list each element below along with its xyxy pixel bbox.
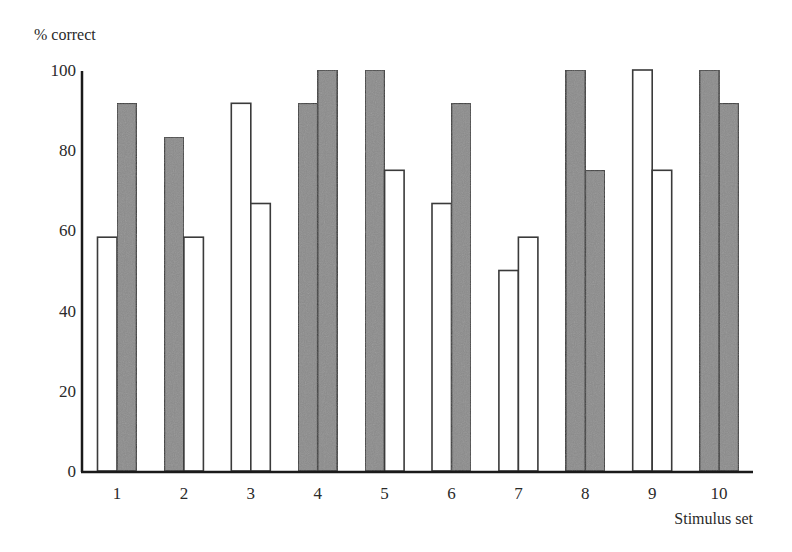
bar-set-8-2-filled: [585, 170, 605, 471]
bar-set-5-2-open: [385, 170, 405, 471]
y-tick-label: 100: [51, 61, 77, 80]
bar-set-5-1-filled: [365, 70, 385, 471]
bar-set-7-2-open: [518, 237, 538, 471]
bar-set-7-1-open: [499, 271, 519, 472]
x-tick-label: 4: [313, 484, 322, 503]
bar-chart: % correct Stimulus set 020406080100 1234…: [0, 0, 792, 552]
bar-set-2-2-open: [184, 237, 204, 471]
bar-set-4-1-filled: [298, 103, 318, 471]
y-tick-label: 20: [59, 382, 76, 401]
x-tick-label: 8: [581, 484, 590, 503]
bar-set-4-2-filled: [318, 70, 338, 471]
y-axis-title: % correct: [34, 26, 96, 43]
y-tick-labels: 020406080100: [51, 61, 77, 481]
x-tick-label: 1: [113, 484, 122, 503]
x-tick-label: 9: [648, 484, 657, 503]
bar-set-1-2-filled: [117, 103, 137, 471]
x-tick-label: 6: [447, 484, 456, 503]
bar-set-10-2-filled: [719, 103, 739, 471]
bars: [98, 70, 739, 471]
y-tick-label: 0: [68, 462, 77, 481]
bar-set-10-1-filled: [700, 70, 720, 471]
bar-set-3-1-open: [231, 103, 251, 471]
x-tick-label: 10: [711, 484, 728, 503]
x-tick-labels: 12345678910: [113, 484, 728, 503]
bar-set-6-2-filled: [452, 103, 472, 471]
bar-set-9-2-open: [652, 170, 672, 471]
x-tick-label: 5: [380, 484, 389, 503]
x-axis-title: Stimulus set: [674, 510, 753, 527]
bar-set-6-1-open: [432, 204, 452, 472]
y-tick-label: 80: [59, 141, 76, 160]
bar-set-3-2-open: [251, 204, 270, 472]
bar-set-9-1-open: [633, 70, 653, 471]
bar-set-8-1-filled: [566, 70, 586, 471]
x-tick-label: 7: [514, 484, 523, 503]
x-tick-label: 2: [180, 484, 189, 503]
bar-set-2-1-filled: [164, 137, 184, 471]
bar-set-1-1-open: [98, 237, 118, 471]
x-tick-label: 3: [247, 484, 256, 503]
y-tick-label: 60: [59, 221, 76, 240]
y-tick-label: 40: [59, 302, 76, 321]
